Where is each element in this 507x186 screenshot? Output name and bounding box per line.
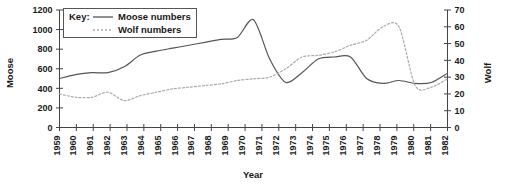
left-tick-label: 600 — [37, 64, 52, 74]
x-tick-label: 1975 — [321, 136, 331, 156]
legend-key-label: Key: — [69, 11, 90, 22]
right-tick-label: 20 — [455, 89, 465, 99]
right-tick-label: 0 — [455, 123, 460, 133]
left-axis-tick-labels: 020040060080010001200 — [32, 5, 52, 133]
x-tick-label: 1965 — [153, 136, 163, 156]
right-tick-label: 70 — [455, 5, 465, 15]
legend-label-wolf: Wolf numbers — [118, 24, 181, 35]
x-tick-label: 1961 — [85, 136, 95, 156]
x-tick-label: 1980 — [406, 136, 416, 156]
left-tick-label: 1200 — [32, 5, 52, 15]
left-tick-label: 800 — [37, 44, 52, 54]
x-tick-label: 1976 — [338, 136, 348, 156]
right-tick-label: 40 — [455, 56, 465, 66]
x-tick-label: 1959 — [52, 136, 62, 156]
legend: Key: Moose numbers Wolf numbers — [64, 9, 197, 38]
x-tick-label: 1962 — [102, 136, 112, 156]
wolf-moose-line-chart: 020040060080010001200 010203040506070 19… — [0, 0, 507, 186]
x-tick-label: 1967 — [186, 136, 196, 156]
x-tick-label: 1970 — [237, 136, 247, 156]
legend-label-moose: Moose numbers — [118, 11, 191, 22]
chart-container: 020040060080010001200 010203040506070 19… — [0, 0, 507, 186]
x-tick-label: 1974 — [305, 136, 315, 156]
x-axis-title: Year — [243, 169, 263, 180]
x-tick-label: 1982 — [440, 136, 450, 156]
x-tick-label: 1979 — [389, 136, 399, 156]
left-tick-label: 1000 — [32, 25, 52, 35]
x-tick-label: 1981 — [423, 136, 433, 156]
right-tick-label: 30 — [455, 72, 465, 82]
x-tick-label: 1964 — [136, 136, 146, 156]
x-tick-label: 1969 — [220, 136, 230, 156]
x-tick-label: 1968 — [203, 136, 213, 156]
x-axis-tick-labels: 1959196019611962196319641965196619671968… — [52, 136, 450, 156]
x-tick-label: 1963 — [119, 136, 129, 156]
right-axis-tick-labels: 010203040506070 — [455, 5, 465, 133]
x-tick-label: 1978 — [372, 136, 382, 156]
left-tick-label: 400 — [37, 84, 52, 94]
right-tick-label: 10 — [455, 106, 465, 116]
left-tick-label: 0 — [47, 123, 52, 133]
x-tick-label: 1977 — [355, 136, 365, 156]
y2-axis-title: Wolf — [482, 62, 493, 83]
x-tick-label: 1973 — [288, 136, 298, 156]
x-tick-label: 1971 — [254, 136, 264, 156]
x-tick-label: 1960 — [68, 136, 78, 156]
y-axis-title: Moose — [4, 58, 15, 88]
left-tick-label: 200 — [37, 103, 52, 113]
x-tick-label: 1972 — [271, 136, 281, 156]
x-tick-label: 1966 — [170, 136, 180, 156]
right-tick-label: 60 — [455, 22, 465, 32]
right-tick-label: 50 — [455, 39, 465, 49]
